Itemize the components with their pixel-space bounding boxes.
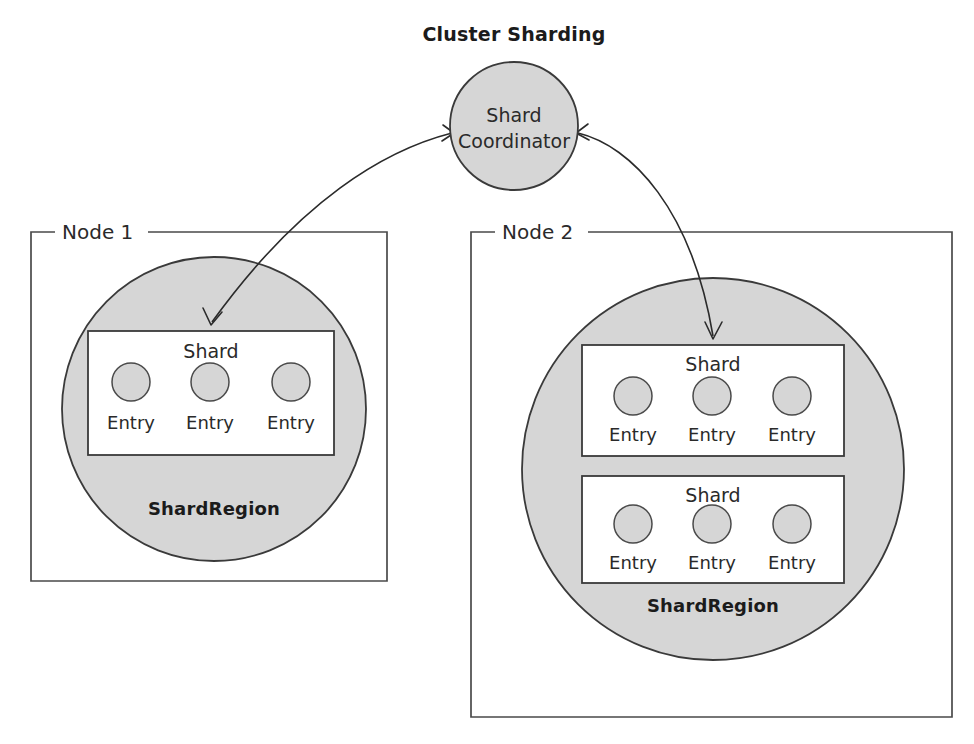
entry-circle[interactable] — [614, 377, 652, 415]
entry-label: Entry — [267, 412, 315, 433]
shard-region-label: ShardRegion — [148, 498, 280, 519]
cluster-sharding-diagram: Cluster Sharding Node 1 ShardRegion Shar… — [0, 0, 974, 744]
node-2-label: Node 2 — [502, 220, 573, 244]
entry-label: Entry — [609, 424, 657, 445]
entry-circle[interactable] — [272, 363, 310, 401]
shard-node-1-0[interactable]: Shard Entry Entry Entry — [88, 331, 334, 455]
entry-circle[interactable] — [693, 505, 731, 543]
entry-label: Entry — [768, 424, 816, 445]
entry-label: Entry — [609, 552, 657, 573]
diagram-canvas: Cluster Sharding Node 1 ShardRegion Shar… — [0, 0, 974, 744]
shard-label: Shard — [685, 484, 740, 506]
entry-circle[interactable] — [773, 505, 811, 543]
entry-label: Entry — [688, 552, 736, 573]
shard-coordinator-circle[interactable] — [450, 62, 578, 190]
node-1-label: Node 1 — [62, 220, 133, 244]
entry-circle[interactable] — [693, 377, 731, 415]
entry-label: Entry — [186, 412, 234, 433]
shard-coordinator-label-line-1: Shard — [486, 104, 541, 126]
entry-label: Entry — [768, 552, 816, 573]
shard-coordinator-label-line-2: Coordinator — [458, 130, 570, 152]
entry-label: Entry — [107, 412, 155, 433]
entry-circle[interactable] — [614, 505, 652, 543]
page-title: Cluster Sharding — [422, 23, 605, 45]
shard-coordinator[interactable]: Shard Coordinator — [450, 62, 578, 190]
entry-label: Entry — [688, 424, 736, 445]
entry-circle[interactable] — [773, 377, 811, 415]
entry-circle[interactable] — [112, 363, 150, 401]
shard-label: Shard — [685, 353, 740, 375]
shard-region-label: ShardRegion — [647, 595, 779, 616]
shard-node-2-1[interactable]: Shard Entry Entry Entry — [582, 476, 844, 583]
shard-label: Shard — [183, 340, 238, 362]
shard-node-2-0[interactable]: Shard Entry Entry Entry — [582, 345, 844, 456]
entry-circle[interactable] — [191, 363, 229, 401]
